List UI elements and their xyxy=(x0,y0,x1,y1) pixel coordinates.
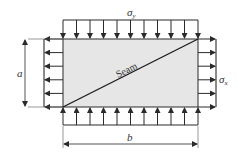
sigma-y-label: σy xyxy=(127,6,136,20)
right-load-arrows xyxy=(198,39,216,107)
dimension-a-label: a xyxy=(17,67,23,79)
diagram-canvas: Seam σy σx a b xyxy=(0,0,237,154)
dimension-a: a xyxy=(17,39,63,107)
bottom-load-arrows xyxy=(63,108,198,125)
top-load-arrows xyxy=(63,20,198,38)
dimension-b: b xyxy=(63,126,198,148)
seam-stress-diagram: Seam σy σx a b xyxy=(0,0,237,154)
dimension-b-label: b xyxy=(127,131,133,143)
left-load-arrows xyxy=(44,39,63,107)
sigma-x-label: σx xyxy=(219,73,228,87)
